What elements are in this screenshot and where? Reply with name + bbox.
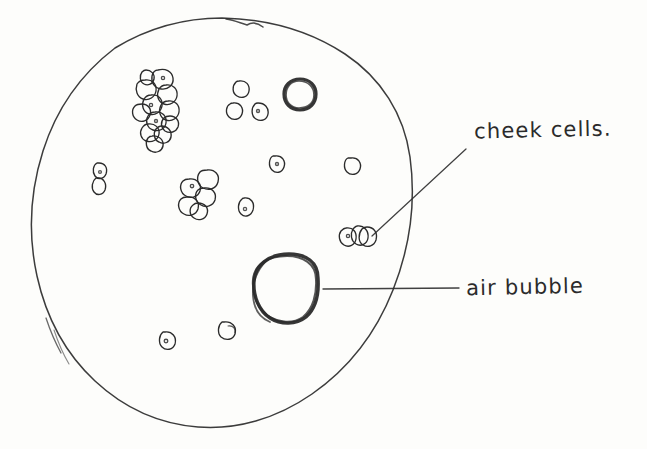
label-cheek-cells: cheek cells. (474, 117, 612, 144)
isolated-cells (92, 81, 360, 350)
air-bubble-small (284, 79, 316, 110)
cell-bottom-right (218, 322, 235, 340)
sketch-layer (0, 0, 647, 449)
leader-line-air-bubble (323, 288, 459, 289)
cell-mid-right (344, 158, 360, 175)
cell-cluster-upper-left (133, 69, 180, 152)
air-bubble-large (253, 254, 318, 323)
cell-cluster-labelled (339, 226, 376, 246)
field-of-view-circle (31, 18, 412, 427)
cell-top-left-lower (226, 103, 242, 120)
drawing-canvas: cheek cells. air bubble (0, 0, 647, 449)
cell-mid-centre (269, 156, 284, 173)
label-air-bubble: air bubble (466, 274, 585, 300)
cell-top-upper (233, 81, 249, 98)
cell-top-right-lower (252, 103, 268, 120)
cell-left-figure-eight (92, 163, 106, 194)
cell-cluster-mid-left (179, 170, 219, 220)
leader-line-cheek-cells (372, 149, 466, 236)
